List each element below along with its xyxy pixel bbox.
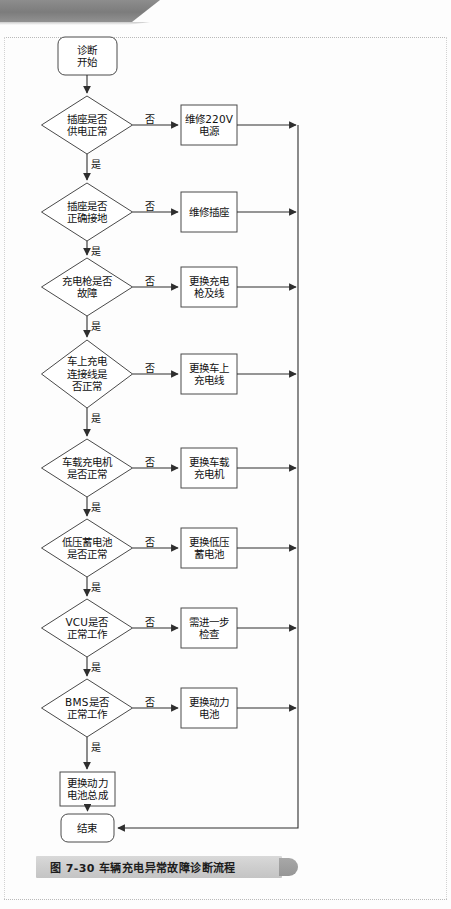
action-node-5 (181, 448, 237, 488)
flowchart-svg (0, 0, 451, 909)
edge-label-no-8: 否 (145, 694, 155, 709)
flowchart: 诊断 开始插座是否 供电正常维修220V 电源否是插座是否 正确接地维修插座否是… (0, 0, 451, 909)
edge-label-no-3: 否 (145, 273, 155, 288)
edge-label-yes-8: 是 (91, 739, 101, 754)
edge-label-no-5: 否 (145, 454, 155, 469)
page-canvas: 诊断 开始插座是否 供电正常维修220V 电源否是插座是否 正确接地维修插座否是… (0, 0, 451, 909)
edge-label-no-1: 否 (145, 111, 155, 126)
edge-label-yes-3: 是 (91, 318, 101, 333)
action-node-1 (181, 105, 237, 145)
decision-node-4 (42, 340, 133, 408)
edge-label-yes-4: 是 (91, 410, 101, 425)
decision-node-2 (42, 183, 133, 241)
decision-node-3 (42, 258, 133, 316)
figure-caption: 图 7-30 车辆充电异常故障诊断流程 (36, 856, 298, 878)
edge-label-yes-6: 是 (91, 579, 101, 594)
terminal-action-node (60, 772, 115, 806)
action-node-4 (181, 354, 237, 394)
edge-label-yes-1: 是 (91, 156, 101, 171)
decision-node-5 (42, 439, 133, 497)
edge-label-no-2: 否 (145, 198, 155, 213)
end-node (61, 814, 114, 842)
decision-node-6 (42, 519, 133, 577)
start-node (58, 37, 117, 75)
edge-label-yes-5: 是 (91, 499, 101, 514)
action-node-7 (181, 608, 237, 648)
edge-label-no-6: 否 (145, 534, 155, 549)
caption-text: 图 7-30 车辆充电异常故障诊断流程 (50, 856, 282, 878)
decision-node-8 (42, 679, 133, 737)
action-node-2 (181, 192, 237, 232)
decision-node-1 (42, 96, 133, 154)
edge-label-yes-7: 是 (91, 659, 101, 674)
action-node-6 (181, 528, 237, 568)
edge-label-no-7: 否 (145, 614, 155, 629)
action-node-3 (181, 267, 237, 307)
edge-label-no-4: 否 (145, 360, 155, 375)
action-node-8 (181, 688, 237, 728)
decision-node-7 (42, 599, 133, 657)
edge-label-yes-2: 是 (91, 243, 101, 258)
